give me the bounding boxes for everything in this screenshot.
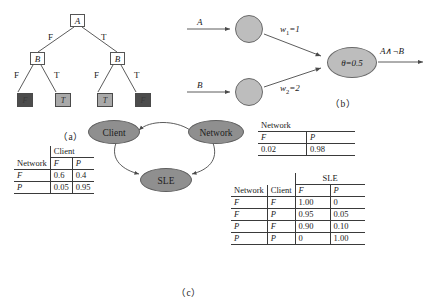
client-cpt-col-f: F [50, 158, 72, 170]
client-cpt-col-p: P [72, 158, 93, 170]
tree-edge-label-leftb-right: T [54, 71, 60, 80]
perceptron-weight-2: w2=2 [280, 83, 300, 95]
table-row: SLE [231, 173, 365, 185]
perceptron-input-label-b: B [197, 81, 203, 90]
tree-edge-label-leftb-left: F [14, 71, 19, 80]
client-cpt-group-header: Client [50, 146, 93, 158]
client-cpt-corner [14, 146, 50, 158]
tree-node-root: A [70, 14, 85, 27]
sle-cpt-row3-client: P [267, 233, 295, 245]
perceptron-input-label-a: A [197, 18, 203, 27]
tree-edge-label-rightb-right: T [134, 71, 140, 80]
tree-leaf-1: F [17, 93, 33, 107]
network-cpt-col-f: F [258, 132, 307, 144]
tree-node-left-b: B [30, 52, 45, 65]
sle-cpt-group-header: SLE [295, 173, 365, 185]
perceptron-arrows [175, 0, 427, 118]
sle-cpt-col-p: P [330, 185, 365, 197]
perceptron-output-label: A∧¬B [380, 47, 404, 56]
tree-leaf-4: F [135, 93, 151, 107]
client-cpt-row0-parent: F [14, 170, 50, 182]
network-cpt-row0-val0: 0.02 [258, 144, 307, 156]
weight-1-value: =1 [289, 24, 300, 34]
table-row: P P 0 1.00 [231, 233, 365, 245]
table-row: P F 0.90 0.10 [231, 221, 365, 233]
client-cpt-row0-val1: 0.4 [72, 170, 93, 182]
sle-cpt-row3-network: P [231, 233, 267, 245]
sle-cpt-row2-client: F [267, 221, 295, 233]
bn-node-client: Client [88, 120, 140, 144]
sle-cpt-row0-network: F [231, 197, 267, 209]
sle-cpt-corner-2 [267, 173, 295, 185]
table-client-cpt: Client Network F P F 0.6 0.4 P 0.05 0.95 [14, 146, 94, 194]
sle-cpt-row2-val1: 0.10 [330, 221, 365, 233]
client-cpt-parent-header: Network [14, 158, 50, 170]
sle-cpt-row3-val1: 1.00 [330, 233, 365, 245]
client-cpt-row1-parent: P [14, 182, 50, 194]
client-cpt-row0-val0: 0.6 [50, 170, 72, 182]
sle-cpt-parent-header-network: Network [231, 185, 267, 197]
table-row: Client [14, 146, 94, 158]
perceptron-node-b [235, 78, 263, 106]
sle-cpt-row1-network: F [231, 209, 267, 221]
sle-cpt-row0-client: F [267, 197, 295, 209]
sle-cpt-row2-val0: 0.90 [295, 221, 330, 233]
caption-c: （c） [176, 285, 202, 299]
sle-cpt-row1-val1: 0.05 [330, 209, 365, 221]
table-network-cpt: Network F P 0.02 0.98 [258, 120, 355, 156]
table-row: F P 0.95 0.05 [231, 209, 365, 221]
network-cpt-row0-val1: 0.98 [307, 144, 356, 156]
table-row: F P [258, 132, 355, 144]
perceptron-threshold-node: θ=0.5 [327, 47, 377, 78]
bn-node-network: Network [188, 120, 244, 144]
tree-node-right-b: B [110, 52, 125, 65]
tree-edge-label-root-left: F [48, 33, 53, 42]
sle-cpt-col-f: F [295, 185, 330, 197]
table-row: 0.02 0.98 [258, 144, 355, 156]
caption-b: （b） [330, 96, 356, 110]
perceptron-node-a [235, 15, 263, 43]
sle-cpt-row1-val0: 0.95 [295, 209, 330, 221]
table-row: Network [258, 120, 355, 132]
sle-cpt-row0-val1: 0 [330, 197, 365, 209]
table-row: F 0.6 0.4 [14, 170, 94, 182]
client-cpt-row1-val1: 0.95 [72, 182, 93, 194]
figure-b-perceptron: A B w1=1 w2=2 θ=0.5 A∧¬B [175, 0, 427, 118]
tree-leaf-2: T [55, 93, 71, 107]
weight-2-value: =2 [289, 83, 300, 93]
sle-cpt-corner-1 [231, 173, 267, 185]
figure-c-bayesian-network: Client Network SLE Client Network F P F … [0, 118, 427, 308]
table-row: P 0.05 0.95 [14, 182, 94, 194]
sle-cpt-parent-header-client: Client [267, 185, 295, 197]
sle-cpt-row1-client: P [267, 209, 295, 221]
sle-cpt-row2-network: P [231, 221, 267, 233]
client-cpt-row1-val0: 0.05 [50, 182, 72, 194]
network-cpt-col-p: P [307, 132, 356, 144]
table-row: Network Client F P [231, 185, 365, 197]
network-cpt-group-header: Network [258, 120, 355, 132]
tree-edge-label-rightb-left: F [94, 71, 99, 80]
figure-a-decision-tree: A F T B B F T F T F T T F [0, 0, 200, 118]
table-row: Network F P [14, 158, 94, 170]
tree-edge-label-root-right: T [101, 33, 107, 42]
sle-cpt-row3-val0: 0 [295, 233, 330, 245]
sle-cpt-row0-val0: 1.00 [295, 197, 330, 209]
tree-leaf-3: T [97, 93, 113, 107]
table-sle-cpt: SLE Network Client F P F F 1.00 0 F P 0.… [231, 173, 365, 245]
perceptron-weight-1: w1=1 [280, 24, 300, 36]
table-row: F F 1.00 0 [231, 197, 365, 209]
bn-node-sle: SLE [140, 168, 192, 192]
